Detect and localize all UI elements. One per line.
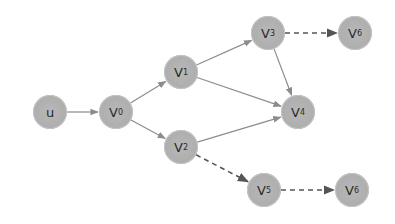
node-label: V <box>257 183 266 198</box>
node-v1: V1 <box>164 55 198 89</box>
edge-v1-v3 <box>197 40 252 65</box>
node-v2: V2 <box>164 130 198 164</box>
node-v6-top: V6 <box>338 16 372 50</box>
node-subscript: 6 <box>354 186 359 195</box>
node-label: u <box>46 105 54 120</box>
node-label: V <box>174 140 183 155</box>
node-v6-bottom: V6 <box>335 173 369 207</box>
node-v5: V5 <box>247 173 281 207</box>
node-label: V <box>109 105 118 120</box>
node-label: V <box>261 26 270 41</box>
edge-v0-v2 <box>131 120 165 138</box>
node-u: u <box>33 95 67 129</box>
node-subscript: 1 <box>183 68 188 77</box>
node-v3: V3 <box>251 16 285 50</box>
node-subscript: 5 <box>266 186 271 195</box>
node-label: V <box>291 105 300 120</box>
node-subscript: 4 <box>300 108 305 117</box>
edge-v2-v5 <box>196 155 248 182</box>
edge-v3-v4 <box>274 49 292 95</box>
edge-v2-v4 <box>197 117 280 142</box>
node-label: V <box>174 65 183 80</box>
node-subscript: 0 <box>118 108 123 117</box>
dependency-graph: u V0 V1 V2 V3 V4 V5 V6 V6 <box>0 0 395 224</box>
edge-v0-v1 <box>130 81 165 103</box>
node-subscript: 3 <box>270 29 275 38</box>
edge-v1-v4 <box>197 77 281 106</box>
node-label: V <box>348 26 357 41</box>
node-subscript: 2 <box>183 143 188 152</box>
node-v0: V0 <box>99 95 133 129</box>
node-subscript: 6 <box>357 29 362 38</box>
node-label: V <box>345 183 354 198</box>
node-v4: V4 <box>281 95 315 129</box>
